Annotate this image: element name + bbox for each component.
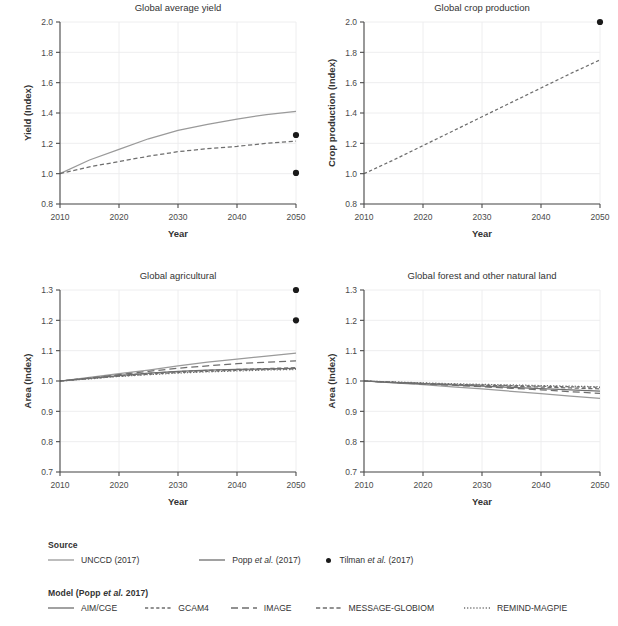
y-tick-label: 1.1 xyxy=(41,346,53,356)
legend-heading-model: Model (Popp et al. 2017) xyxy=(48,588,567,598)
x-tick-label: 2010 xyxy=(51,212,70,222)
legend-model: Model (Popp et al. 2017)AIM/CGEGCAM4IMAG… xyxy=(48,588,567,613)
y-tick-label: 1.6 xyxy=(41,78,53,88)
y-tick-label: 1.8 xyxy=(41,48,53,58)
y-axis-title: Area (Index) xyxy=(326,354,337,409)
legend-item-message-globiom[interactable]: MESSAGE-GLOBIOM xyxy=(316,603,434,613)
scatter-point-tilman xyxy=(293,132,299,138)
scatter-point-tilman xyxy=(293,170,299,176)
x-tick-label: 2040 xyxy=(532,480,551,490)
legend-item-label: GCAM4 xyxy=(178,603,209,613)
dotted-line-icon xyxy=(145,603,171,613)
y-tick-label: 1.0 xyxy=(345,169,357,179)
x-tick-label: 2010 xyxy=(355,480,374,490)
legend-item-label: Tilman et al. (2017) xyxy=(340,555,414,565)
scatter-point-tilman xyxy=(293,317,299,323)
y-tick-label: 0.8 xyxy=(41,437,53,447)
legend-item-label: AIM/CGE xyxy=(81,603,117,613)
panel-title: Global agricultural xyxy=(140,270,217,281)
legend-item-image[interactable]: IMAGE xyxy=(231,603,292,613)
y-tick-label: 1.3 xyxy=(345,285,357,295)
y-tick-label: 1.4 xyxy=(41,108,53,118)
x-tick-label: 2040 xyxy=(532,212,551,222)
x-tick-label: 2030 xyxy=(473,212,492,222)
x-tick-label: 2010 xyxy=(355,212,374,222)
x-tick-label: 2050 xyxy=(287,480,306,490)
axes: 0.70.80.91.01.11.21.32010202020302040205… xyxy=(41,285,306,490)
scatter-point-tilman xyxy=(293,287,299,293)
x-tick-label: 2030 xyxy=(473,480,492,490)
y-tick-label: 1.0 xyxy=(41,169,53,179)
y-tick-label: 0.8 xyxy=(345,199,357,209)
y-tick-label: 0.7 xyxy=(345,467,357,477)
scatter-point-tilman xyxy=(597,19,603,25)
dashed-line-icon xyxy=(316,603,342,613)
chart-panel-global-forest-and-other-natural-land: Global forest and other natural land0.70… xyxy=(318,268,618,530)
legend-heading-source: Source xyxy=(48,540,413,550)
figure-root: Global average yield0.81.01.21.41.61.82.… xyxy=(0,0,618,626)
legend-item-label: MESSAGE-GLOBIOM xyxy=(349,603,434,613)
long-dashed-line-icon xyxy=(231,603,257,613)
y-tick-label: 1.0 xyxy=(41,376,53,386)
legend-item-remind-magpie[interactable]: REMIND-MAGPIE xyxy=(464,603,567,613)
x-tick-label: 2010 xyxy=(51,480,70,490)
y-axis-title: Area (Index) xyxy=(22,354,33,409)
legend-item-aim-cge[interactable]: AIM/CGE xyxy=(48,603,117,613)
x-tick-label: 2020 xyxy=(110,480,129,490)
y-tick-label: 1.1 xyxy=(345,346,357,356)
x-tick-label: 2020 xyxy=(110,212,129,222)
filled-circle-icon xyxy=(323,558,335,563)
x-tick-label: 2040 xyxy=(228,212,247,222)
solid-line-icon xyxy=(199,555,225,565)
y-tick-label: 1.6 xyxy=(345,78,357,88)
panel-title: Global forest and other natural land xyxy=(408,270,557,281)
legend-item-gcam4[interactable]: GCAM4 xyxy=(145,603,209,613)
y-tick-label: 1.2 xyxy=(41,139,53,149)
x-tick-label: 2050 xyxy=(591,212,610,222)
legend-source: SourceUNCCD (2017)Popp et al. (2017)Tilm… xyxy=(48,540,413,565)
scatter-points-group xyxy=(597,19,603,25)
y-tick-label: 0.9 xyxy=(41,407,53,417)
axes: 0.81.01.21.41.61.82.02010202020302040205… xyxy=(41,17,306,222)
solid-line-icon xyxy=(48,555,74,565)
gridlines xyxy=(60,290,296,472)
x-tick-label: 2050 xyxy=(287,212,306,222)
chart-panel-global-agricultural: Global agricultural0.70.80.91.01.11.21.3… xyxy=(14,268,314,530)
y-tick-label: 1.0 xyxy=(345,376,357,386)
y-tick-label: 1.2 xyxy=(41,316,53,326)
x-axis-title: Year xyxy=(168,228,188,239)
x-axis-title: Year xyxy=(472,228,492,239)
legend-item-label: Popp et al. (2017) xyxy=(232,555,300,565)
y-tick-label: 0.7 xyxy=(41,467,53,477)
x-axis-title: Year xyxy=(472,496,492,507)
y-tick-label: 2.0 xyxy=(345,17,357,27)
y-axis-title: Yield (Index) xyxy=(22,85,33,141)
solid-line-icon xyxy=(48,603,74,613)
chart-panel-global-average-yield: Global average yield0.81.01.21.41.61.82.… xyxy=(14,0,314,262)
legend-item-label: REMIND-MAGPIE xyxy=(497,603,567,613)
legend-item-label: UNCCD (2017) xyxy=(81,555,139,565)
x-axis-title: Year xyxy=(168,496,188,507)
x-tick-label: 2030 xyxy=(169,212,188,222)
chart-panel-global-crop-production: Global crop production0.81.01.21.41.61.8… xyxy=(318,0,618,262)
legend-item-label: IMAGE xyxy=(264,603,292,613)
legend-item-popp-et-al-2017[interactable]: Popp et al. (2017) xyxy=(199,555,300,565)
gridlines xyxy=(60,22,296,204)
y-tick-label: 1.2 xyxy=(345,139,357,149)
y-tick-label: 1.4 xyxy=(345,108,357,118)
x-tick-label: 2020 xyxy=(414,212,433,222)
y-tick-label: 1.2 xyxy=(345,316,357,326)
y-tick-label: 1.8 xyxy=(345,48,357,58)
y-axis-title: Crop production (Index) xyxy=(326,59,337,167)
y-tick-label: 0.8 xyxy=(345,437,357,447)
gridlines xyxy=(364,290,600,472)
x-tick-label: 2050 xyxy=(591,480,610,490)
y-tick-label: 0.8 xyxy=(41,199,53,209)
panel-title: Global average yield xyxy=(135,2,222,13)
y-tick-label: 2.0 xyxy=(41,17,53,27)
x-tick-label: 2020 xyxy=(414,480,433,490)
legend-item-tilman-et-al-2017[interactable]: Tilman et al. (2017) xyxy=(323,555,414,565)
legend-item-unccd-2017[interactable]: UNCCD (2017) xyxy=(48,555,139,565)
legend-row-model: AIM/CGEGCAM4IMAGEMESSAGE-GLOBIOMREMIND-M… xyxy=(48,603,567,613)
y-tick-label: 1.3 xyxy=(41,285,53,295)
